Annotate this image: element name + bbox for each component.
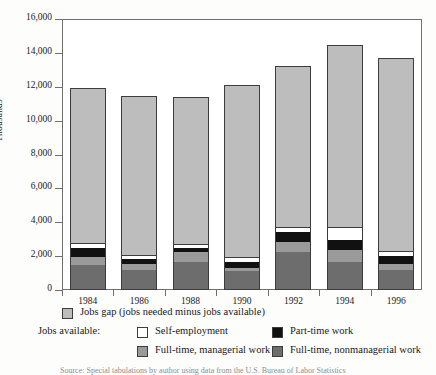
legend-swatch-jobs-gap [62,308,73,319]
bar-segment-part [327,240,363,250]
x-tick-mark [62,290,63,296]
bar-1988 [173,19,209,290]
source-note: Source: Special tabulations by author us… [60,366,346,375]
y-tick-mark [55,188,62,189]
y-tick-label: 6,000 [31,181,52,191]
legend-label-jobs-available: Jobs available: [38,325,100,336]
bar-segment-nonmgr [378,270,414,290]
y-tick-label: 2,000 [31,249,52,259]
bar-segment-mgr [173,252,209,262]
y-tick-mark [55,256,62,257]
bar-1986 [121,19,157,290]
bar-segment-part [173,248,209,252]
bar-1996 [378,19,414,290]
bar-segment-nonmgr [121,270,157,290]
bar-segment-mgr [327,250,363,262]
y-tick-label: 4,000 [31,215,52,225]
legend-swatch-nonmanagerial [272,346,283,357]
x-tick-mark [216,290,217,296]
bar-segment-gap [275,66,311,227]
y-tick-mark [55,19,62,20]
bar-segment-mgr [275,242,311,252]
y-tick-mark [55,155,62,156]
bar-segment-mgr [121,264,157,270]
bar-1990 [224,19,260,290]
y-axis-title: Thousands [0,99,4,142]
y-tick-label: 16,000 [26,12,52,22]
legend-row-available-2: Full-time, managerial work Full-time, no… [0,343,436,362]
bar-segment-mgr [378,264,414,270]
y-tick-label: 0 [47,283,52,293]
bar-segment-mgr [70,257,106,265]
bar-segment-mgr [224,268,260,271]
x-tick-mark [268,290,269,296]
bar-segment-self [70,244,106,248]
legend-label-managerial: Full-time, managerial work [155,344,270,355]
bar-segment-self [173,245,209,248]
bar-segment-self [378,252,414,256]
bar-1984 [70,19,106,290]
bar-segment-nonmgr [224,271,260,290]
x-tick-mark [113,290,114,296]
legend-row-gap: Jobs gap (jobs needed minus jobs availab… [0,305,436,324]
chart-legend: Jobs gap (jobs needed minus jobs availab… [0,305,436,362]
y-tick-mark [55,87,62,88]
y-tick-mark [55,222,62,223]
x-tick-mark [165,290,166,296]
x-tick-mark [371,290,372,296]
bar-segment-gap [378,58,414,252]
stacked-bar-chart: Thousands 16,00014,00012,00010,0008,0006… [0,0,436,375]
legend-label-jobs-gap: Jobs gap (jobs needed minus jobs availab… [80,306,265,317]
bar-segment-part [70,248,106,257]
y-tick-mark [55,53,62,54]
legend-swatch-part-time [272,327,283,338]
bar-segment-part [224,262,260,268]
bar-segment-gap [70,88,106,244]
y-tick-mark [55,121,62,122]
bar-segment-self [275,228,311,232]
legend-label-nonmanagerial: Full-time, nonmanagerial work [290,344,421,355]
bar-segment-gap [327,45,363,228]
bar-segment-gap [173,97,209,245]
y-tick-mark [55,290,62,291]
y-tick-label: 8,000 [31,148,52,158]
y-tick-label: 14,000 [26,46,52,56]
y-tick-label: 12,000 [26,80,52,90]
legend-swatch-self-employment [137,327,148,338]
legend-label-part-time: Part-time work [290,325,353,336]
bar-segment-gap [224,85,260,258]
bar-segment-self [327,228,363,240]
bar-segment-gap [121,96,157,256]
bar-segment-part [121,259,157,264]
bar-segment-nonmgr [327,262,363,290]
bar-segment-nonmgr [70,265,106,290]
legend-label-self-employment: Self-employment [155,325,228,336]
bar-segment-part [275,232,311,242]
bar-segment-self [121,256,157,259]
bar-1992 [275,19,311,290]
bar-segment-self [224,258,260,262]
x-tick-mark [319,290,320,296]
bar-segment-nonmgr [173,262,209,290]
bar-1994 [327,19,363,290]
legend-row-available-1: Jobs available: Self-employment Part-tim… [0,324,436,343]
bar-segment-nonmgr [275,252,311,290]
bar-segment-part [378,256,414,264]
y-tick-label: 10,000 [26,114,52,124]
legend-swatch-managerial [137,346,148,357]
